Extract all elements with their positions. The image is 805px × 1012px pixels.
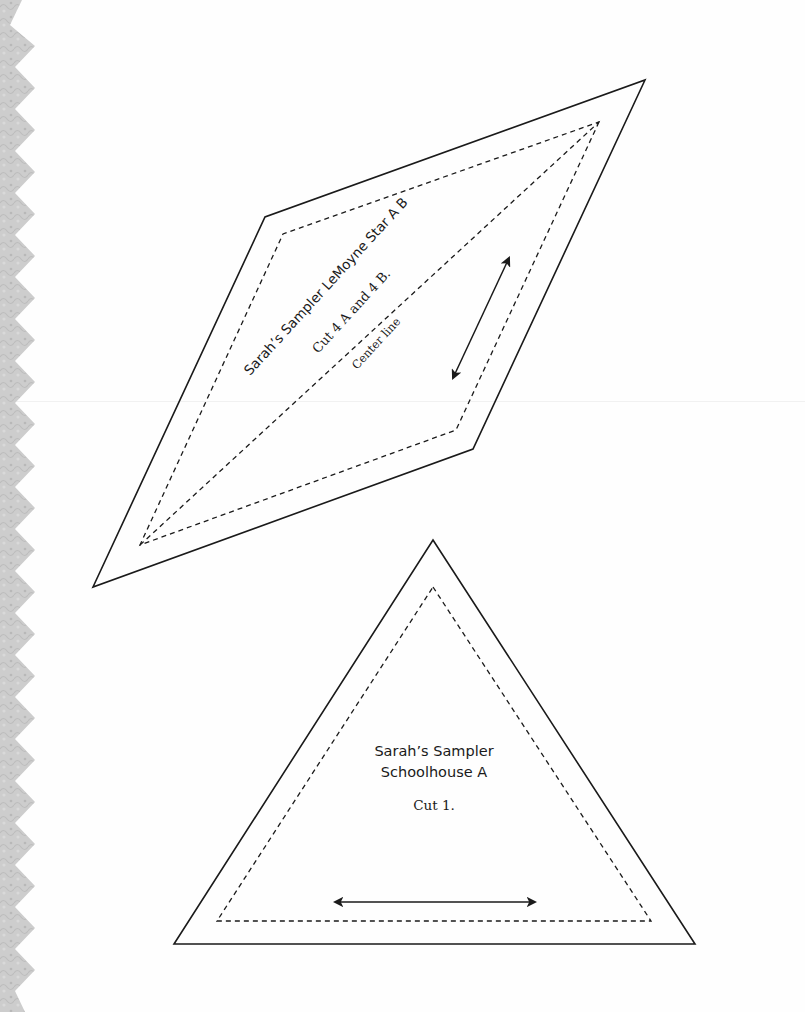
diamond-center-label: Center line (349, 314, 403, 372)
template-canvas: Sarah’s Sampler LeMoyne Star A B Cut 4 A… (0, 0, 805, 1012)
zigzag-border (0, 0, 35, 1012)
triangle-title-line-2: Schoolhouse A (381, 764, 487, 780)
lemoyne-star-template: Sarah’s Sampler LeMoyne Star A B Cut 4 A… (93, 80, 645, 587)
schoolhouse-template: Sarah’s Sampler Schoolhouse A Cut 1. (174, 540, 695, 944)
diamond-cut-line (93, 80, 645, 587)
diamond-center-line (140, 122, 599, 545)
diamond-title: Sarah’s Sampler LeMoyne Star A B (240, 194, 410, 378)
pattern-page: Sarah’s Sampler LeMoyne Star A B Cut 4 A… (0, 0, 805, 1012)
triangle-cut-instruction: Cut 1. (413, 797, 455, 813)
triangle-title-line-1: Sarah’s Sampler (374, 743, 493, 759)
diamond-grain-arrow (453, 258, 509, 378)
triangle-cut-line (174, 540, 695, 944)
